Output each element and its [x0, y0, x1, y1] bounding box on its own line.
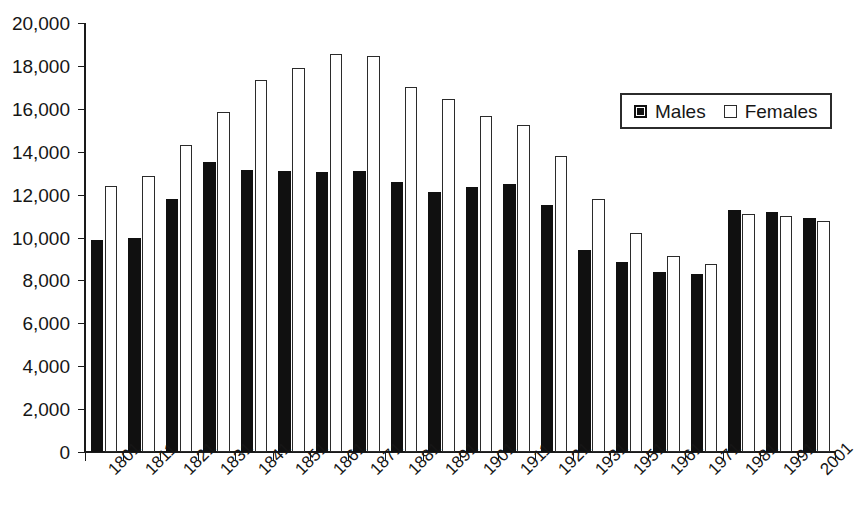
x-axis-tick: [498, 452, 499, 461]
filled-square-icon: [634, 105, 647, 118]
y-axis-tick-label: 0: [59, 443, 70, 462]
legend-label-females: Females: [745, 102, 818, 121]
bar-males-1921: [541, 205, 554, 452]
plot-area: [85, 23, 835, 452]
bar-females-1811: [142, 176, 155, 452]
x-axis-tick: [310, 452, 311, 461]
bar-females-1951: [630, 233, 643, 452]
x-axis-tick: [460, 452, 461, 461]
x-axis-tick: [760, 452, 761, 461]
bar-males-1981: [728, 210, 741, 452]
bar-females-1901: [480, 116, 493, 452]
legend-item-females: Females: [724, 102, 818, 121]
bar-males-1901: [466, 187, 479, 452]
bar-males-1811: [128, 238, 141, 453]
bar-females-1861: [330, 54, 343, 452]
chart-legend: Males Females: [620, 93, 832, 129]
x-axis-tick: [798, 452, 799, 461]
x-axis-tick: [160, 452, 161, 461]
x-axis-tick: [198, 452, 199, 461]
bar-females-1981: [742, 214, 755, 452]
x-axis-tick: [348, 452, 349, 461]
y-axis-tick-label: 10,000: [12, 229, 70, 248]
bar-females-1881: [405, 87, 418, 452]
y-axis-tick-label: 8,000: [22, 271, 70, 290]
bar-females-1931: [592, 199, 605, 452]
bar-females-1821: [180, 145, 193, 452]
x-axis-tick: [723, 452, 724, 461]
y-axis-tick-label: 4,000: [22, 357, 70, 376]
x-axis-tick: [235, 452, 236, 461]
bar-females-1921: [555, 156, 568, 452]
x-axis-tick: [835, 452, 836, 461]
y-axis-tick-label: 18,000: [12, 57, 70, 76]
bar-females-1961: [667, 256, 680, 452]
bar-males-2001: [803, 218, 816, 452]
x-axis-tick: [535, 452, 536, 461]
outlined-square-icon: [724, 105, 737, 118]
bar-males-1881: [391, 182, 404, 452]
y-axis-tick-label: 2,000: [22, 400, 70, 419]
bar-males-1851: [278, 171, 291, 452]
bar-females-1971: [705, 264, 718, 452]
x-axis-tick: [685, 452, 686, 461]
bar-females-1871: [367, 56, 380, 452]
bar-females-1851: [292, 68, 305, 452]
bar-males-1831: [203, 162, 216, 452]
bar-females-1891: [442, 99, 455, 452]
x-axis-tick: [610, 452, 611, 461]
bar-males-1931: [578, 250, 591, 452]
bar-females-1991: [780, 216, 793, 452]
y-axis-tick-label: 14,000: [12, 143, 70, 162]
bar-males-1821: [166, 199, 179, 452]
bar-females-1831: [217, 112, 230, 452]
y-axis-tick-label: 12,000: [12, 186, 70, 205]
x-axis-tick: [85, 452, 86, 461]
bar-males-1861: [316, 172, 329, 452]
bar-males-1951: [616, 262, 629, 452]
bar-males-1991: [766, 212, 779, 452]
bar-males-1971: [691, 274, 704, 452]
bar-females-2001: [817, 221, 830, 452]
bar-males-1911: [503, 184, 516, 452]
legend-label-males: Males: [655, 102, 706, 121]
bar-females-1841: [255, 80, 268, 452]
legend-item-males: Males: [634, 102, 706, 121]
x-axis-tick: [648, 452, 649, 461]
bar-males-1841: [241, 170, 254, 452]
y-axis-tick-label: 6,000: [22, 314, 70, 333]
bar-females-1801: [105, 186, 118, 452]
x-axis-tick: [423, 452, 424, 461]
x-axis-tick: [385, 452, 386, 461]
bar-males-1891: [428, 192, 441, 452]
bar-females-1911: [517, 125, 530, 452]
bar-males-1961: [653, 272, 666, 452]
x-axis-tick: [123, 452, 124, 461]
bar-males-1801: [91, 240, 104, 452]
x-axis-tick: [573, 452, 574, 461]
x-axis-tick: [273, 452, 274, 461]
y-axis-tick-label: 20,000: [12, 14, 70, 33]
bar-males-1871: [353, 171, 366, 452]
y-axis-tick-label: 16,000: [12, 100, 70, 119]
